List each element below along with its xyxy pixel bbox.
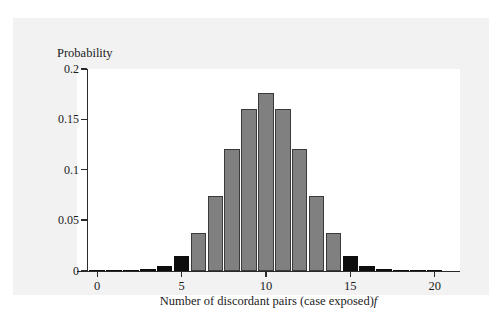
chart-figure: Probability 00.050.10.150.2 05101520 Num…	[0, 0, 502, 313]
bar	[309, 196, 325, 270]
y-tick-label: 0.15	[39, 112, 79, 127]
x-tick-mark	[350, 271, 351, 277]
x-axis-line	[77, 271, 460, 272]
x-tick-label: 0	[77, 279, 117, 294]
bar	[157, 266, 173, 271]
y-axis-title: Probability	[57, 46, 113, 61]
y-tick-label: 0	[39, 263, 79, 278]
bar	[106, 270, 122, 271]
bar	[376, 269, 392, 270]
bar	[241, 109, 257, 270]
bar	[224, 149, 240, 270]
y-tick-label: 0.05	[39, 213, 79, 228]
bar	[140, 269, 156, 270]
x-tick-mark	[434, 271, 435, 277]
bar	[393, 270, 409, 271]
x-tick-label: 20	[415, 279, 455, 294]
bar	[275, 109, 291, 270]
x-tick-mark	[265, 271, 266, 277]
y-tick-label: 0.2	[39, 62, 79, 77]
bar	[292, 149, 308, 270]
y-tick-label: 0.1	[39, 162, 79, 177]
x-tick-mark	[181, 271, 182, 277]
bar	[208, 196, 224, 270]
x-tick-label: 10	[246, 279, 286, 294]
bar	[410, 270, 426, 271]
figure-panel: Probability 00.050.10.150.2 05101520 Num…	[13, 18, 489, 295]
bar	[258, 93, 274, 271]
bar	[191, 233, 207, 270]
bar	[174, 256, 190, 271]
bar	[326, 233, 342, 270]
bar	[343, 256, 359, 271]
bar	[89, 270, 105, 271]
bar-series	[77, 69, 460, 271]
bar	[427, 270, 443, 271]
bar	[123, 270, 139, 271]
x-tick-label: 5	[162, 279, 202, 294]
bar	[359, 266, 375, 271]
x-axis-title-main: Number of discordant pairs (case exposed…	[160, 294, 374, 308]
x-tick-mark	[97, 271, 98, 277]
x-axis-title: Number of discordant pairs (case exposed…	[77, 294, 460, 309]
x-tick-label: 15	[330, 279, 370, 294]
x-axis-title-variable: f	[374, 294, 377, 308]
